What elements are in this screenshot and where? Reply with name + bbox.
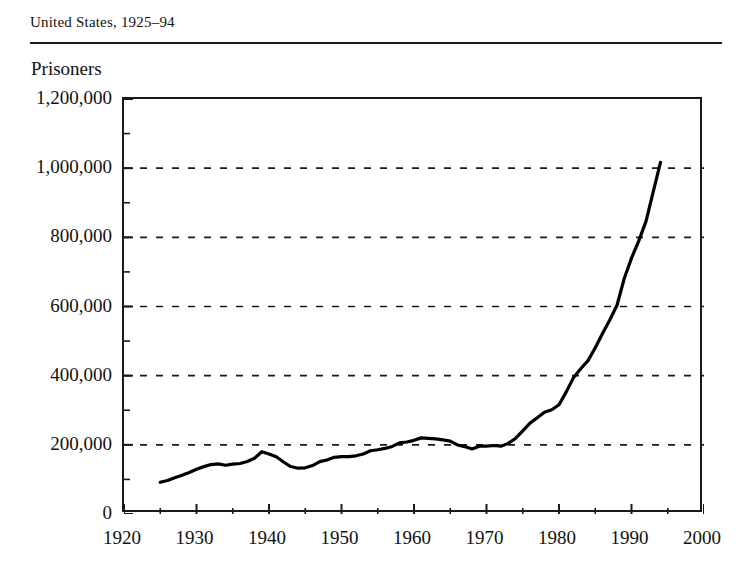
x-axis-tick-label: 1980 <box>517 528 597 547</box>
x-axis-tick-label: 1990 <box>590 528 670 547</box>
plot-svg <box>124 99 704 514</box>
y-axis-tick-label: 200,000 <box>0 434 112 453</box>
y-axis-tick-label: 0 <box>0 503 112 522</box>
x-axis-tick-label: 1940 <box>227 528 307 547</box>
x-axis-tick-label: 1970 <box>445 528 525 547</box>
y-axis-tick-labels: 0200,000400,000600,000800,0001,000,0001,… <box>0 0 112 581</box>
x-axis-tick-label: 1930 <box>155 528 235 547</box>
y-axis-ticks <box>124 99 133 514</box>
y-axis-tick-label: 400,000 <box>0 365 112 384</box>
data-series-line <box>160 162 660 482</box>
y-axis-tick-label: 600,000 <box>0 296 112 315</box>
chart-figure: United States, 1925–94 Prisoners 0200,00… <box>0 0 752 581</box>
y-axis-tick-label: 800,000 <box>0 226 112 245</box>
x-axis-tick-label: 1960 <box>372 528 452 547</box>
y-axis-tick-label: 1,200,000 <box>0 88 112 107</box>
header-divider <box>30 42 722 44</box>
x-axis-tick-label: 1950 <box>300 528 380 547</box>
y-axis-tick-label: 1,000,000 <box>0 157 112 176</box>
plot-area <box>122 97 702 512</box>
x-axis-ticks <box>124 504 704 514</box>
x-axis-tick-label: 1920 <box>82 528 162 547</box>
x-axis-tick-label: 2000 <box>662 528 742 547</box>
